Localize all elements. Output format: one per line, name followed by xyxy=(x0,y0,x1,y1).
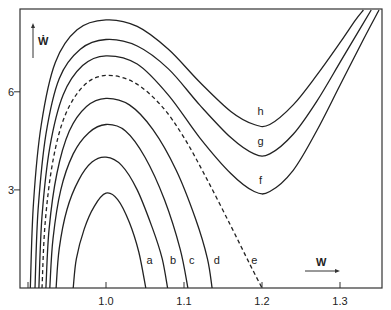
phase-plot: 1.01.11.21.336 abcdefgh Ẇ W xyxy=(0,0,391,310)
plot-frame xyxy=(20,9,382,288)
curve-label-g: g xyxy=(257,135,263,147)
curve-g xyxy=(35,10,371,288)
curve-label-h: h xyxy=(257,105,263,117)
curve-label-f: f xyxy=(259,174,263,186)
x-tick-label: 1.1 xyxy=(176,295,191,307)
curve-f xyxy=(39,10,379,288)
y-axis-title: Ẇ xyxy=(38,35,49,47)
curve-label-e: e xyxy=(251,254,257,266)
curve-b xyxy=(56,157,168,288)
curve-d xyxy=(46,98,212,288)
y-axis-label: Ẇ xyxy=(31,23,49,58)
curve-a xyxy=(73,193,146,288)
curve-c xyxy=(50,124,188,288)
x-tick-label: 1.2 xyxy=(254,295,269,307)
curve-h xyxy=(30,10,363,288)
y-axis-arrowhead-icon xyxy=(31,23,35,28)
curves xyxy=(30,10,379,288)
curve-label-b: b xyxy=(170,254,176,266)
curve-label-a: a xyxy=(147,254,154,266)
x-tick-label: 1.3 xyxy=(332,295,347,307)
x-axis-title: W xyxy=(316,256,327,268)
x-tick-label: 1.0 xyxy=(98,295,113,307)
x-axis-label: W xyxy=(305,256,340,273)
curve-label-c: c xyxy=(189,254,195,266)
curve-label-d: d xyxy=(214,254,220,266)
y-tick-label: 6 xyxy=(8,86,14,98)
y-tick-label: 3 xyxy=(8,184,14,196)
x-axis-arrowhead-icon xyxy=(335,269,340,273)
plot-svg: 1.01.11.21.336 abcdefgh Ẇ W xyxy=(0,0,391,310)
